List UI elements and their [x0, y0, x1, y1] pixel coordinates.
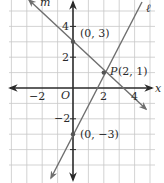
point-0-neg3 — [71, 132, 75, 136]
point-0-3 — [71, 40, 75, 44]
line-l-label: ℓ — [146, 2, 151, 15]
tick-y-4: 4 — [62, 20, 69, 33]
line-m-label: m — [40, 0, 50, 9]
tick-x-neg2: −2 — [29, 90, 45, 103]
point-P-name: P — [109, 65, 118, 78]
tick-x-4: 4 — [131, 90, 138, 103]
point-P — [102, 70, 106, 74]
coordinate-plane: x O m ℓ (0, 3) P (2, 1) (0, −3) −2 2 4 4… — [0, 0, 164, 183]
tick-y-neg2: −2 — [54, 112, 70, 125]
point-0-3-label: (0, 3) — [80, 27, 110, 40]
point-P-coords: (2, 1) — [118, 65, 148, 78]
x-axis-label: x — [155, 82, 162, 95]
point-0-neg3-label: (0, −3) — [80, 128, 119, 141]
tick-y-2: 2 — [62, 51, 69, 64]
line-m — [29, 0, 146, 109]
origin-label: O — [61, 89, 70, 102]
tick-x-2: 2 — [100, 90, 107, 103]
